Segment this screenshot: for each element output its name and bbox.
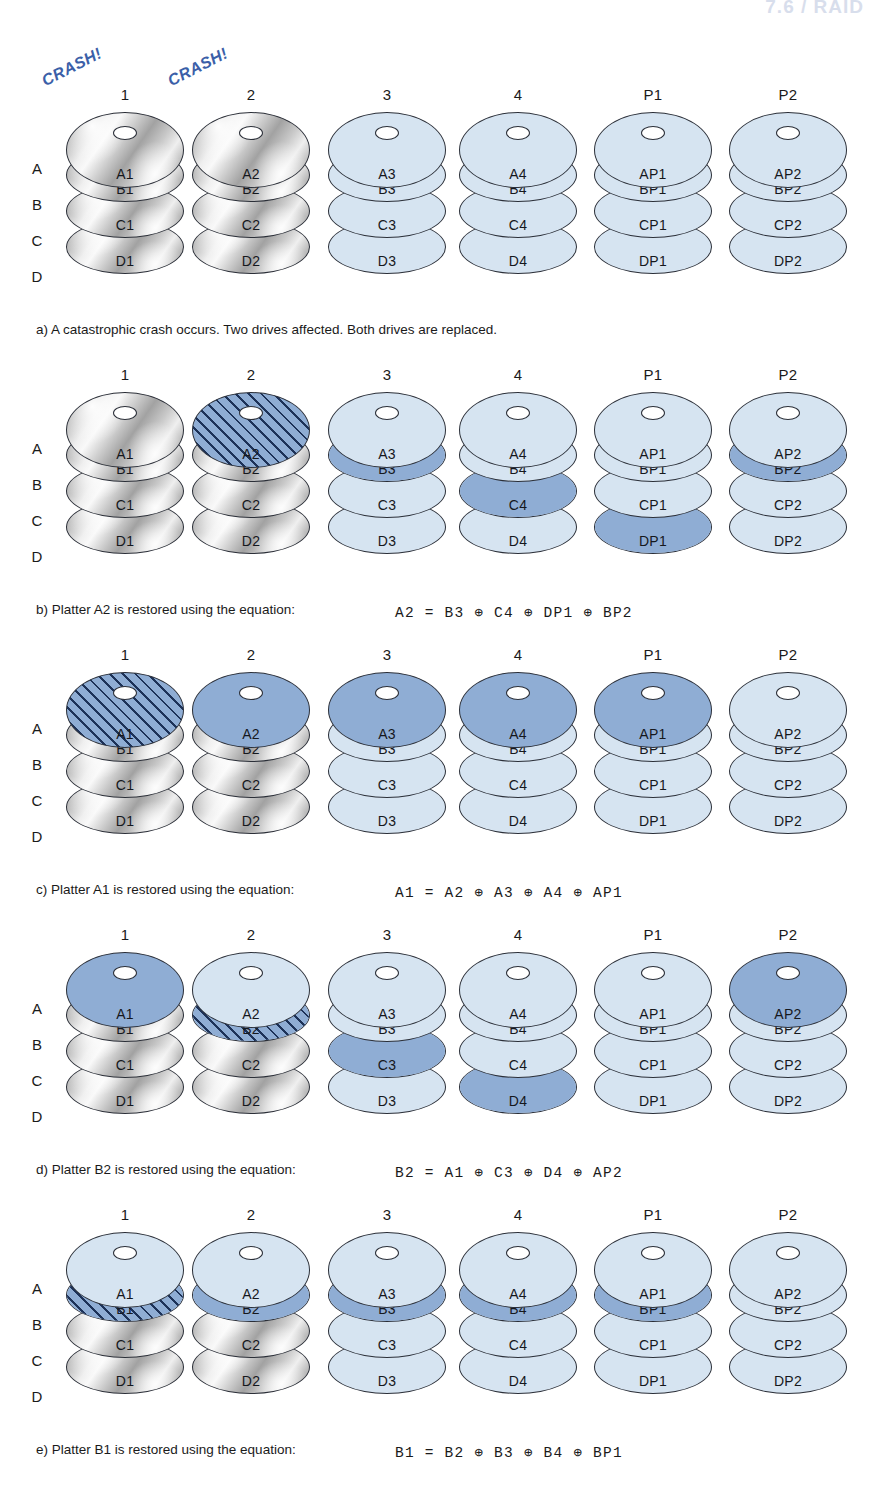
platter-label: A1: [67, 1286, 183, 1302]
platter-A3[interactable]: A3: [328, 392, 446, 468]
platter-A2[interactable]: A2: [192, 112, 310, 188]
platter-label: C1: [67, 777, 183, 793]
crash-label-2: CRASH!: [165, 44, 231, 90]
platter-label: C1: [67, 1337, 183, 1353]
platter-A4[interactable]: A4: [459, 672, 577, 748]
platter-AP2[interactable]: AP2: [729, 392, 847, 468]
disk-stack-P1[interactable]: DP1CP1BP1AP1: [594, 952, 712, 1138]
spindle-hole-icon: [641, 126, 665, 140]
platter-label: AP1: [595, 726, 711, 742]
platter-label: C1: [67, 1057, 183, 1073]
platter-label: D4: [460, 253, 576, 269]
platter-A4[interactable]: A4: [459, 952, 577, 1028]
platter-label: CP2: [730, 497, 846, 513]
disk-stack-P2[interactable]: DP2CP2BP2AP2: [729, 112, 847, 298]
disk-stack-4[interactable]: D4C4B4A4: [459, 672, 577, 858]
column-header-3: 3: [357, 926, 417, 943]
platter-label: D2: [193, 813, 309, 829]
disk-stack-2[interactable]: D2C2B2A2: [192, 952, 310, 1138]
spindle-hole-icon: [641, 1246, 665, 1260]
column-header-P1: P1: [623, 1206, 683, 1223]
platter-label: D3: [329, 813, 445, 829]
platter-A1[interactable]: A1: [66, 952, 184, 1028]
platter-A1[interactable]: A1: [66, 672, 184, 748]
platter-A4[interactable]: A4: [459, 1232, 577, 1308]
platter-label: A2: [193, 166, 309, 182]
disk-stack-1[interactable]: D1C1B1A1: [66, 112, 184, 298]
panel-equation-b: A2 = B3 ⊕ C4 ⊕ DP1 ⊕ BP2: [395, 604, 633, 621]
platter-AP1[interactable]: AP1: [594, 112, 712, 188]
disk-stack-P1[interactable]: DP1CP1BP1AP1: [594, 672, 712, 858]
column-header-1: 1: [95, 646, 155, 663]
disk-stack-P2[interactable]: DP2CP2BP2AP2: [729, 672, 847, 858]
disk-stack-3[interactable]: D3C3B3A3: [328, 952, 446, 1138]
row-label-C: C: [28, 1072, 46, 1089]
disk-stack-4[interactable]: D4C4B4A4: [459, 112, 577, 298]
spindle-hole-icon: [113, 126, 137, 140]
platter-AP2[interactable]: AP2: [729, 112, 847, 188]
disk-stack-2[interactable]: D2C2B2A2: [192, 1232, 310, 1418]
disk-stack-P2[interactable]: DP2CP2BP2AP2: [729, 952, 847, 1138]
platter-label: C4: [460, 1337, 576, 1353]
platter-A3[interactable]: A3: [328, 952, 446, 1028]
platter-AP1[interactable]: AP1: [594, 952, 712, 1028]
disk-stack-3[interactable]: D3C3B3A3: [328, 1232, 446, 1418]
disk-stack-4[interactable]: D4C4B4A4: [459, 392, 577, 578]
platter-label: CP2: [730, 1337, 846, 1353]
disk-stack-2[interactable]: D2C2B2A2: [192, 392, 310, 578]
spindle-hole-icon: [506, 686, 530, 700]
spindle-hole-icon: [239, 126, 263, 140]
platter-A2[interactable]: A2: [192, 392, 310, 468]
platter-AP1[interactable]: AP1: [594, 1232, 712, 1308]
platter-A3[interactable]: A3: [328, 1232, 446, 1308]
spindle-hole-icon: [375, 406, 399, 420]
row-label-A: A: [28, 1280, 46, 1297]
platter-AP2[interactable]: AP2: [729, 1232, 847, 1308]
platter-A1[interactable]: A1: [66, 112, 184, 188]
platter-AP1[interactable]: AP1: [594, 672, 712, 748]
disk-stack-P1[interactable]: DP1CP1BP1AP1: [594, 392, 712, 578]
disk-stack-3[interactable]: D3C3B3A3: [328, 392, 446, 578]
column-header-P2: P2: [758, 86, 818, 103]
panel-e: 1234P1P2ABCDD1C1B1A1D2C2B2A2D3C3B3A3D4C4…: [0, 1206, 878, 1486]
spindle-hole-icon: [641, 686, 665, 700]
column-header-P1: P1: [623, 646, 683, 663]
disk-stack-4[interactable]: D4C4B4A4: [459, 952, 577, 1138]
platter-A4[interactable]: A4: [459, 112, 577, 188]
disk-stack-1[interactable]: D1C1B1A1: [66, 1232, 184, 1418]
platter-A2[interactable]: A2: [192, 952, 310, 1028]
panel-equation-e: B1 = B2 ⊕ B3 ⊕ B4 ⊕ BP1: [395, 1444, 623, 1461]
platter-AP2[interactable]: AP2: [729, 952, 847, 1028]
platter-label: CP2: [730, 1057, 846, 1073]
spindle-hole-icon: [506, 966, 530, 980]
disk-stack-1[interactable]: D1C1B1A1: [66, 392, 184, 578]
platter-A1[interactable]: A1: [66, 392, 184, 468]
platter-label: CP1: [595, 497, 711, 513]
platter-A3[interactable]: A3: [328, 112, 446, 188]
platter-A2[interactable]: A2: [192, 1232, 310, 1308]
platter-A3[interactable]: A3: [328, 672, 446, 748]
platter-label: A4: [460, 1006, 576, 1022]
platter-label: C4: [460, 777, 576, 793]
platter-label: D4: [460, 1373, 576, 1389]
disk-stack-3[interactable]: D3C3B3A3: [328, 112, 446, 298]
column-header-P2: P2: [758, 1206, 818, 1223]
platter-A1[interactable]: A1: [66, 1232, 184, 1308]
platter-label: D4: [460, 533, 576, 549]
disk-stack-1[interactable]: D1C1B1A1: [66, 672, 184, 858]
disk-stack-3[interactable]: D3C3B3A3: [328, 672, 446, 858]
platter-AP1[interactable]: AP1: [594, 392, 712, 468]
platter-A2[interactable]: A2: [192, 672, 310, 748]
spindle-hole-icon: [641, 406, 665, 420]
disk-stack-P2[interactable]: DP2CP2BP2AP2: [729, 392, 847, 578]
platter-A4[interactable]: A4: [459, 392, 577, 468]
disk-stack-2[interactable]: D2C2B2A2: [192, 112, 310, 298]
platter-AP2[interactable]: AP2: [729, 672, 847, 748]
disk-stack-4[interactable]: D4C4B4A4: [459, 1232, 577, 1418]
disk-stack-P1[interactable]: DP1CP1BP1AP1: [594, 1232, 712, 1418]
disk-stack-1[interactable]: D1C1B1A1: [66, 952, 184, 1138]
platter-label: DP2: [730, 1093, 846, 1109]
disk-stack-P1[interactable]: DP1CP1BP1AP1: [594, 112, 712, 298]
disk-stack-P2[interactable]: DP2CP2BP2AP2: [729, 1232, 847, 1418]
disk-stack-2[interactable]: D2C2B2A2: [192, 672, 310, 858]
